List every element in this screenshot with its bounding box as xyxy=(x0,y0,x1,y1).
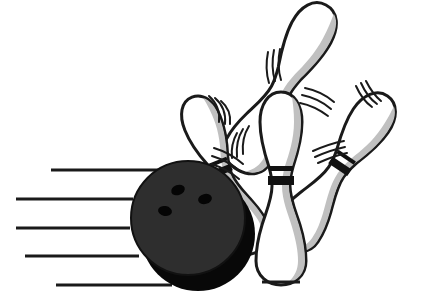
bowling-illustration-canvas: Bowling Ball Striking Pins xyxy=(0,0,423,299)
bowling-strike-illustration: Bowling Ball Striking Pins xyxy=(0,0,423,299)
pin-center-front-band-secondary xyxy=(269,166,293,171)
pin-center-front-band xyxy=(268,176,294,185)
